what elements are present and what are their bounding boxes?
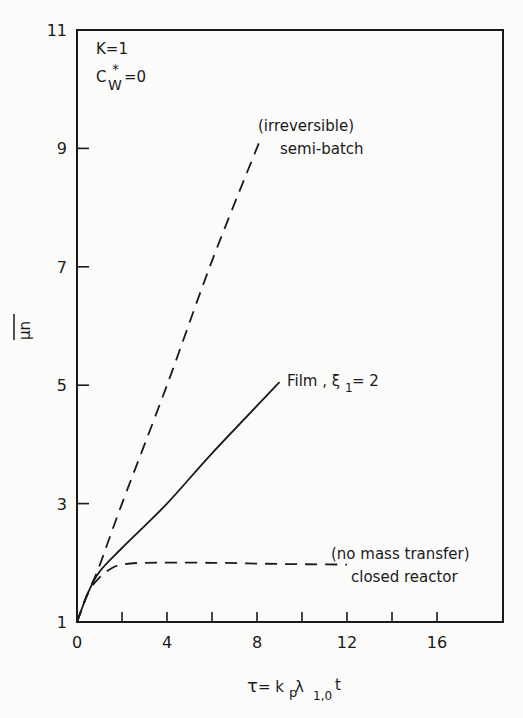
y-axis-label: μn	[14, 314, 34, 340]
y-tick-label: 3	[57, 495, 67, 514]
svg-text:C: C	[96, 68, 106, 86]
param-k: K=1	[96, 40, 128, 58]
svg-text:*: *	[112, 61, 119, 77]
x-tick-label: 16	[427, 633, 447, 652]
x-tick-label: 12	[337, 633, 357, 652]
label-irreversible-1: (irreversible)	[258, 117, 354, 135]
svg-text:Film , ξ: Film , ξ	[287, 372, 340, 390]
label-film: Film , ξ 1 = 2	[287, 372, 379, 395]
x-axis-ticks: 0481216	[72, 612, 447, 652]
svg-text:1,0: 1,0	[313, 689, 332, 703]
x-tick-label: 0	[72, 633, 82, 652]
chart: 0481216 1357911 K=1 C * W =0 (irreversib…	[0, 0, 523, 718]
label-irreversible-2: semi-batch	[280, 140, 364, 158]
svg-text:μn: μn	[16, 321, 34, 340]
x-tick-label: 8	[252, 633, 262, 652]
svg-text:t: t	[335, 676, 341, 694]
y-tick-label: 7	[57, 258, 67, 277]
series-line-0	[77, 137, 262, 622]
svg-text:W: W	[108, 77, 122, 93]
x-axis-label: τ = k p λ 1,0 t	[247, 675, 341, 703]
y-tick-label: 1	[57, 613, 67, 632]
svg-text:λ: λ	[295, 678, 304, 696]
svg-text:= k: = k	[258, 678, 284, 696]
param-cw: C * W =0	[96, 61, 146, 93]
y-tick-label: 11	[47, 21, 67, 40]
label-closed-1: (no mass transfer)	[331, 545, 470, 563]
svg-text:=0: =0	[124, 68, 146, 86]
y-tick-label: 9	[57, 139, 67, 158]
series-line-1	[77, 382, 280, 622]
label-closed-2: closed reactor	[351, 568, 458, 586]
svg-text:τ: τ	[247, 675, 258, 696]
y-axis-ticks: 1357911	[47, 21, 89, 632]
svg-text:= 2: = 2	[352, 372, 379, 390]
y-tick-label: 5	[57, 376, 67, 395]
x-tick-label: 4	[162, 633, 172, 652]
